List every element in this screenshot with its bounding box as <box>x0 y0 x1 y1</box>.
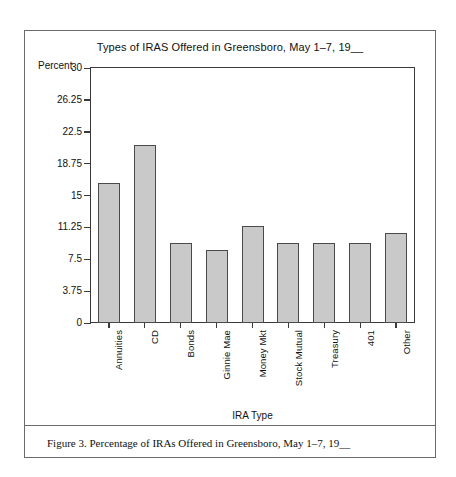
bar <box>134 145 156 324</box>
x-tick-label: CD <box>149 330 160 344</box>
x-tick-mark <box>252 323 253 328</box>
y-tick-label: 30 <box>71 62 82 74</box>
y-tick-label: 7.5 <box>68 253 82 265</box>
x-tick-label: Treasury <box>329 330 340 368</box>
y-tick-mark <box>84 68 91 69</box>
y-tick-label: 11.25 <box>58 221 82 233</box>
y-tick-mark <box>84 131 91 132</box>
bars-layer <box>91 68 414 323</box>
bar <box>98 183 120 323</box>
x-tick-mark <box>216 323 217 328</box>
x-tick-mark <box>288 323 289 328</box>
bar <box>242 226 264 323</box>
bar <box>206 250 228 323</box>
x-tick-label: Stock Mutual <box>293 330 304 386</box>
bar <box>349 243 371 323</box>
bar <box>313 243 335 323</box>
x-tick-mark <box>144 323 145 328</box>
x-tick-mark <box>180 323 181 328</box>
caption-divider <box>25 425 435 426</box>
y-tick-mark <box>84 195 91 196</box>
x-axis-labels: AnnuitiesCDBondsGinnie MaeMoney MktStock… <box>91 330 414 408</box>
x-tick-mark <box>324 323 325 328</box>
y-tick-mark <box>84 99 91 100</box>
x-tick-label: Money Mkt <box>257 330 268 377</box>
y-axis-ticks: 03.757.511.251518.7522.526.2530 <box>25 67 91 323</box>
x-tick-label: Bonds <box>185 330 196 357</box>
x-tick-label: Other <box>401 330 412 354</box>
y-tick-label: 0 <box>76 317 82 329</box>
y-tick-label: 15 <box>71 190 82 202</box>
x-tick-label: Annuities <box>113 330 124 370</box>
bar <box>385 233 407 323</box>
x-tick-mark <box>395 323 396 328</box>
x-tick-label: Ginnie Mae <box>221 330 232 380</box>
chart-title: Types of IRAS Offered in Greensboro, May… <box>25 41 435 53</box>
y-tick-mark <box>84 163 91 164</box>
bar <box>170 243 192 323</box>
x-tick-mark <box>108 323 109 328</box>
y-tick-label: 22.5 <box>63 126 82 138</box>
y-tick-label: 26.25 <box>57 94 82 106</box>
y-tick-mark <box>84 227 91 228</box>
y-tick-label: 3.75 <box>63 285 82 297</box>
y-tick-label: 18.75 <box>57 158 82 170</box>
chart-region: Types of IRAS Offered in Greensboro, May… <box>25 31 435 426</box>
figure-frame: Types of IRAS Offered in Greensboro, May… <box>24 30 436 458</box>
y-tick-mark <box>84 259 91 260</box>
y-tick-mark <box>84 323 91 324</box>
x-tick-mark <box>360 323 361 328</box>
x-tick-label: 401 <box>365 330 376 346</box>
x-axis-ticks <box>91 323 414 329</box>
figure-caption: Figure 3. Percentage of IRAs Offered in … <box>47 437 417 449</box>
bar <box>277 243 299 323</box>
x-axis-title: IRA Type <box>90 410 415 421</box>
y-tick-mark <box>84 291 91 292</box>
